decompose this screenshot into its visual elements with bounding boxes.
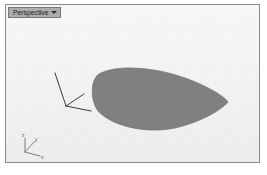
lens-surface[interactable]: [89, 66, 229, 132]
viewport-title-label: Perspective: [13, 8, 48, 17]
chevron-down-icon[interactable]: [51, 11, 57, 14]
application-window: z y x Perspective: [0, 0, 267, 175]
cplane-axis-z: [55, 73, 66, 106]
gizmo-axis-z-label: z: [22, 133, 25, 138]
world-axis-gizmo: z y x: [20, 133, 54, 161]
lens-surface-path: [92, 68, 228, 130]
cplane-axis-x: [66, 106, 91, 111]
gizmo-axis-y-label: y: [35, 136, 38, 142]
perspective-viewport[interactable]: z y x Perspective: [5, 4, 260, 163]
cplane-axis-y: [66, 94, 84, 106]
gizmo-axis-x-label: x: [41, 154, 44, 160]
cplane-axis-triad: [50, 69, 98, 119]
viewport-title-tab[interactable]: Perspective: [8, 7, 61, 18]
gizmo-axis-y-line: [25, 141, 35, 152]
gizmo-axis-x-line: [25, 152, 40, 156]
